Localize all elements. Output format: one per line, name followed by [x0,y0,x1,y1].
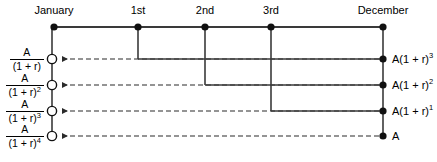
period-label-3rd: 3rd [263,5,279,16]
future-value-label-row-2: A(1 + r)2 [392,80,433,91]
future-value-label-row-4: A [392,131,399,142]
timeline-node-third [267,23,274,30]
period-label-december: December [358,5,409,16]
pv-numerator: A [6,99,44,111]
period-label-january: January [34,5,73,16]
timeline-node-december [379,23,386,30]
future-value-node-row-1 [379,55,386,62]
pv-numerator: A [6,73,44,85]
pv-denominator: (1 + r)4 [6,137,44,149]
diagram-canvas [0,0,437,162]
pv-numerator: A [6,124,44,136]
pv-numerator: A [10,47,44,59]
present-value-node-row-1 [47,54,56,63]
pv-denominator: (1 + r)2 [6,86,44,98]
future-value-node-row-3 [379,107,386,114]
future-value-node-row-2 [379,81,386,88]
period-label-1st: 1st [131,5,146,16]
timeline-node-first [134,23,141,30]
cash-flow-timeline-diagram: January 1st 2nd 3rd December A (1 + r) A… [0,0,437,162]
present-value-node-row-3 [47,106,56,115]
period-label-2nd: 2nd [196,5,214,16]
future-value-label-row-1: A(1 + r)3 [392,54,433,65]
timeline-node-january [50,23,57,30]
pv-denominator: (1 + r)3 [6,112,44,124]
timeline-node-second [201,23,208,30]
future-value-label-row-3: A(1 + r)1 [392,106,433,117]
pv-denominator: (1 + r) [10,60,44,72]
present-value-node-row-4 [47,131,56,140]
present-value-node-row-2 [47,80,56,89]
future-value-node-row-4 [379,132,386,139]
